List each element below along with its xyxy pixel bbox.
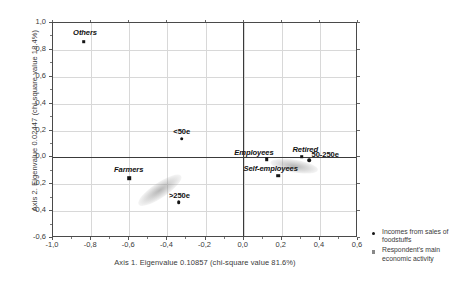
y-axis-tick-label: 0,8 — [8, 44, 46, 53]
legend-item-label: Incomes from sales of foodstuffs — [382, 228, 458, 245]
gridline-vertical — [129, 23, 130, 236]
data-point-marker — [276, 174, 280, 178]
y-axis-tick-label: -0,2 — [8, 178, 46, 187]
y-axis-tick-label: -0,4 — [8, 205, 46, 214]
y-axis-tick-right — [357, 210, 360, 211]
gridline-horizontal — [53, 131, 356, 132]
gridline-horizontal — [53, 184, 356, 185]
data-point-marker — [308, 158, 312, 162]
gridline-horizontal — [53, 104, 356, 105]
gridline-horizontal — [53, 77, 356, 78]
data-point-label: <50e — [173, 127, 190, 136]
legend-item-label: Respondent's main economic activity — [382, 246, 458, 263]
gridline-vertical — [206, 23, 207, 236]
data-point-marker — [180, 137, 184, 141]
gridline-horizontal — [53, 211, 356, 212]
legend-item: Incomes from sales of foodstuffs — [372, 228, 458, 245]
y-axis-tick-label: 0,0 — [8, 151, 46, 160]
y-axis-tick-right — [357, 130, 360, 131]
x-axis-minor-tick — [262, 237, 263, 239]
y-axis-tick-right — [357, 76, 360, 77]
x-axis-minor-tick — [71, 237, 72, 239]
y-axis-tick-right — [357, 22, 360, 23]
y-axis-tick-label: -0,6 — [8, 232, 46, 241]
data-point-marker — [177, 201, 181, 205]
x-axis-tick-label: 0,6 — [337, 240, 377, 249]
y-axis-tick-right — [357, 183, 360, 184]
x-axis-minor-tick — [300, 237, 301, 239]
data-point-label: >250e — [169, 191, 190, 200]
y-axis-tick-label: 1,0 — [8, 17, 46, 26]
correspondence-analysis-figure: Axis 2. Eigenvalue 0.02447 (chi-square v… — [0, 0, 460, 295]
data-point-label: Retired — [292, 144, 317, 153]
y-axis-tick — [49, 237, 52, 238]
y-axis-tick-label: 0,2 — [8, 125, 46, 134]
x-axis-tick-label: -1,0 — [32, 240, 72, 249]
gridline-vertical — [91, 23, 92, 236]
y-axis-tick-label: 0,6 — [8, 71, 46, 80]
x-axis-title: Axis 1. Eigenvalue 0.10857 (chi-square v… — [52, 258, 358, 267]
gridline-vertical — [167, 23, 168, 236]
data-point-label: Others — [73, 28, 97, 37]
x-axis-minor-tick — [147, 237, 148, 239]
y-axis-tick-right — [357, 156, 360, 157]
x-axis-tick-label: 0,2 — [261, 240, 301, 249]
y-axis-tick-right — [357, 237, 360, 238]
x-axis-tick-label: 0,0 — [223, 240, 263, 249]
x-axis-tick-label: 0,4 — [299, 240, 339, 249]
origin-axis-vertical — [243, 23, 244, 236]
x-axis-minor-tick — [224, 237, 225, 239]
x-axis-tick-label: -0,2 — [185, 240, 225, 249]
data-point-label: Self-employees — [244, 164, 298, 173]
legend-square-icon — [372, 246, 382, 253]
x-axis-minor-tick — [109, 237, 110, 239]
gridline-vertical — [282, 23, 283, 236]
data-point-marker — [300, 155, 304, 159]
y-axis-tick-label: 0,4 — [8, 98, 46, 107]
y-axis-tick-right — [357, 49, 360, 50]
data-point-marker — [265, 158, 269, 162]
y-axis-tick-right — [357, 103, 360, 104]
data-point-label: Employees — [234, 148, 273, 157]
gridline-horizontal — [53, 50, 356, 51]
plot-area: <50e>250e50-250eOthersFarmersEmployeesSe… — [52, 22, 357, 237]
legend-circle-icon — [372, 228, 382, 235]
x-axis-tick-label: -0,8 — [70, 240, 110, 249]
legend-item: Respondent's main economic activity — [372, 246, 458, 263]
x-axis-minor-tick — [338, 237, 339, 239]
legend: Incomes from sales of foodstuffsResponde… — [372, 228, 458, 265]
data-point-marker — [82, 40, 86, 44]
data-point-label: Farmers — [114, 164, 143, 173]
gridline-vertical — [320, 23, 321, 236]
x-axis-tick-label: -0,4 — [146, 240, 186, 249]
x-axis-tick-label: -0,6 — [108, 240, 148, 249]
data-point-marker — [127, 176, 131, 180]
x-axis-minor-tick — [185, 237, 186, 239]
